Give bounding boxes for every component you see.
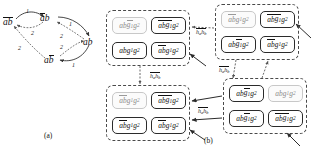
state-cell[interactable]: abg1g2 (229, 110, 264, 127)
transition-label: hahb (150, 73, 160, 80)
state-cell[interactable]: abg1g2 (221, 11, 256, 28)
transition-label: hahb (219, 67, 229, 74)
group-top-left[interactable]: abg1g2abg1g2abg1g2abg1g2 (106, 10, 190, 66)
panel-a-edge-label-0: 1 (26, 8, 29, 14)
transition-label: hahb (198, 108, 208, 115)
state-cell[interactable]: abg1g2 (221, 36, 256, 53)
state-cell[interactable]: abg1g2 (112, 42, 147, 59)
panel-a-node-1: ab (40, 14, 50, 24)
transition-label: hahb (196, 29, 206, 36)
state-cell[interactable]: abg1g2 (151, 92, 186, 109)
state-cell[interactable]: abg1g2 (260, 36, 295, 53)
state-cell[interactable]: abg1g2 (112, 117, 147, 134)
panel-a-node-0: ab (3, 18, 13, 28)
state-cell[interactable]: abg1g2 (151, 17, 186, 34)
state-cell[interactable]: abg1g2 (260, 11, 295, 28)
panel-a-node-2: ab (83, 38, 93, 48)
state-cell[interactable]: abg1g2 (112, 92, 147, 109)
panel-a-edge-label-1: 2 (31, 30, 34, 36)
group-bottom-left[interactable]: abg1g2abg1g2abg1g2abg1g2 (106, 85, 190, 141)
panel-a-edge-label-5: 2 (18, 45, 21, 51)
panel-a-edge-label-2: 1 (69, 21, 72, 27)
state-cell[interactable]: abg1g2 (112, 17, 147, 34)
state-cell[interactable]: abg1g2 (268, 85, 303, 102)
group-top-right[interactable]: abg1g2abg1g2abg1g2abg1g2 (215, 4, 299, 60)
state-cell[interactable]: abg1g2 (151, 42, 186, 59)
caption-b: (b) (204, 137, 213, 145)
panel-a-edge-label-6: 1 (72, 62, 75, 68)
caption-a: (a) (44, 132, 52, 140)
figure-canvas: abababab 1212221 (a) abg1g2abg1g2abg1g2a… (0, 0, 311, 149)
panel-a-edge-label-3: 2 (60, 33, 63, 39)
panel-a-node-3: ab (44, 56, 54, 66)
group-bottom-right[interactable]: abg1g2abg1g2abg1g2abg1g2 (223, 78, 307, 134)
panel-a-edge-label-4: 2 (60, 44, 63, 50)
state-cell[interactable]: abg1g2 (268, 110, 303, 127)
state-cell[interactable]: abg1g2 (151, 117, 186, 134)
state-cell[interactable]: abg1g2 (229, 85, 264, 102)
